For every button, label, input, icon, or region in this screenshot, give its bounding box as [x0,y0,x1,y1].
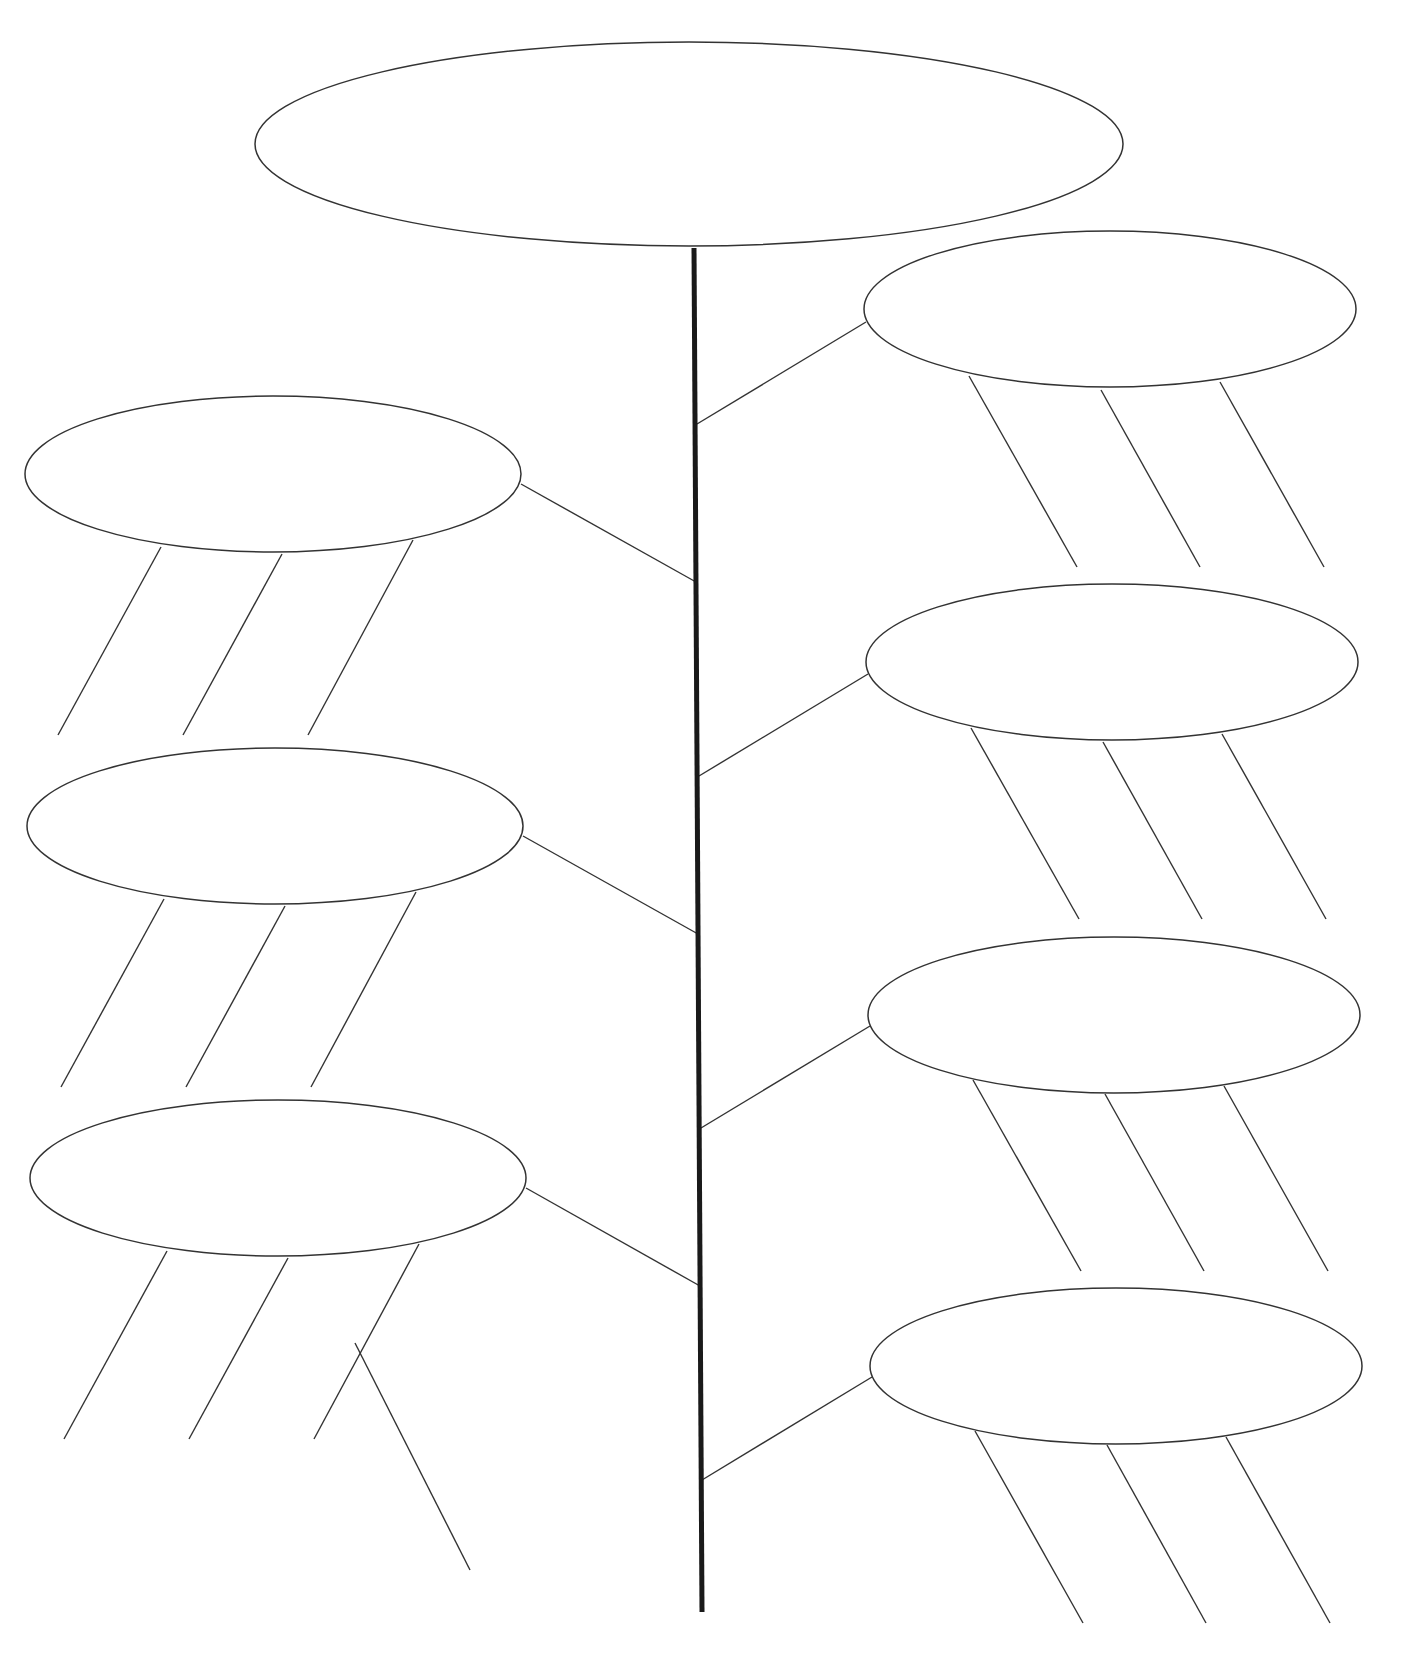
trunk-line [694,248,702,1612]
detail-line [311,892,416,1087]
detail-line [355,1343,470,1570]
ellipse-main[interactable] [255,42,1123,246]
detail-line [971,728,1079,919]
tree-diagram [0,0,1409,1669]
tree-diagram-svg [0,0,1409,1669]
ellipse-left-2[interactable] [27,748,523,904]
node-right-4[interactable] [870,1288,1362,1444]
detail-line [1101,390,1200,567]
connector-left-1 [521,484,696,582]
node-left-2[interactable] [27,748,523,904]
detail-line [975,1431,1083,1623]
connector-right-3 [701,1026,870,1128]
detail-line [186,906,285,1087]
detail-line [1107,1445,1206,1623]
node-left-1[interactable] [25,396,521,552]
connector-right-4 [702,1377,872,1480]
detail-line [183,554,282,735]
ellipse-left-1[interactable] [25,396,521,552]
detail-line [1224,1086,1328,1271]
connector-right-1 [697,322,866,424]
detail-line [969,376,1077,567]
ellipse-right-2[interactable] [866,584,1358,740]
ellipse-right-3[interactable] [868,937,1360,1093]
detail-line [1105,1094,1204,1271]
connector-left-3 [526,1188,700,1286]
connector-left-2 [523,836,698,934]
detail-line [308,540,413,735]
ellipse-right-4[interactable] [870,1288,1362,1444]
node-right-2[interactable] [866,584,1358,740]
ellipse-right-1[interactable] [864,231,1356,387]
node-left-3[interactable] [30,1100,526,1256]
detail-line [189,1258,288,1439]
detail-line [1103,742,1202,919]
connector-right-2 [699,674,868,776]
detail-line [64,1251,167,1439]
detail-line [58,547,161,735]
detail-line [973,1080,1081,1271]
detail-line [1222,734,1326,919]
detail-line [61,899,164,1087]
detail-line [1220,382,1324,567]
node-right-1[interactable] [864,231,1356,387]
ellipse-left-3[interactable] [30,1100,526,1256]
detail-line [1226,1437,1330,1623]
detail-line [314,1244,419,1439]
node-main[interactable] [255,42,1123,246]
node-right-3[interactable] [868,937,1360,1093]
